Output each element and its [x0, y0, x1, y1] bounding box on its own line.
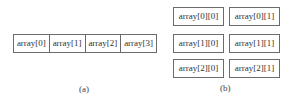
- array-cell-3: array[3]: [121, 35, 156, 52]
- array-cell-1-1: array[1][1]: [229, 34, 280, 53]
- caption-a: (a): [79, 84, 89, 94]
- array-cell-0-0: array[0][0]: [173, 7, 224, 26]
- one-dimensional-array: array[0] array[1] array[2] array[3]: [13, 34, 157, 53]
- array-cell-0-1: array[0][1]: [229, 7, 280, 26]
- array-cell-1-0: array[1][0]: [173, 34, 224, 53]
- caption-b: (b): [220, 83, 231, 93]
- array-cell-2: array[2]: [86, 35, 122, 52]
- array-cell-1: array[1]: [50, 35, 86, 52]
- array-cell-2-1: array[2][1]: [229, 59, 280, 78]
- array-cell-0: array[0]: [14, 35, 50, 52]
- array-cell-2-0: array[2][0]: [173, 59, 224, 78]
